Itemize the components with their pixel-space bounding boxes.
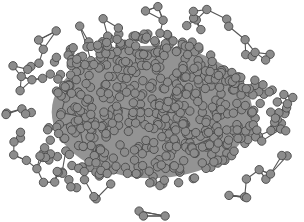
graph-node [157, 161, 165, 169]
graph-node [90, 60, 98, 68]
graph-node [282, 127, 290, 135]
graph-node [121, 57, 129, 65]
graph-node [80, 167, 88, 175]
graph-node [158, 133, 166, 141]
graph-node [172, 142, 180, 150]
graph-node [107, 180, 115, 188]
graph-node [225, 191, 233, 199]
graph-node [265, 88, 273, 96]
graph-node [113, 35, 121, 43]
graph-node [151, 37, 159, 45]
graph-node [280, 90, 288, 98]
graph-node [192, 128, 200, 136]
graph-node [36, 152, 44, 160]
graph-node [80, 176, 88, 184]
graph-node [248, 108, 256, 116]
network-graph [0, 0, 304, 222]
graph-node [114, 24, 122, 32]
graph-node [214, 71, 222, 79]
graph-node [112, 162, 120, 170]
graph-node [208, 57, 216, 65]
graph-node [201, 84, 209, 92]
graph-node [160, 51, 168, 59]
graph-node [251, 76, 259, 84]
graph-node [271, 114, 279, 122]
nodes-layer [2, 2, 297, 220]
graph-node [38, 74, 46, 82]
graph-node [217, 105, 225, 113]
graph-node [129, 99, 137, 107]
graph-node [46, 70, 54, 78]
graph-node [132, 169, 140, 177]
graph-node [73, 55, 81, 63]
graph-node [139, 50, 147, 58]
graph-node [259, 81, 267, 89]
graph-node [204, 128, 212, 136]
graph-node [52, 53, 60, 61]
graph-node [69, 44, 77, 52]
graph-node [91, 121, 99, 129]
graph-node [214, 128, 222, 136]
graph-node [172, 47, 180, 55]
graph-node [9, 62, 17, 70]
graph-node [84, 95, 92, 103]
graph-node [72, 76, 80, 84]
graph-node [67, 89, 75, 97]
graph-node [232, 74, 240, 82]
graph-node [40, 144, 48, 152]
graph-node [142, 33, 150, 41]
graph-node [195, 43, 203, 51]
graph-node [139, 77, 147, 85]
graph-node [74, 116, 82, 124]
graph-node [53, 167, 61, 175]
graph-node [185, 42, 193, 50]
graph-node [194, 97, 202, 105]
graph-node [230, 147, 238, 155]
graph-node [54, 89, 62, 97]
graph-node [169, 37, 177, 45]
graph-node [190, 174, 198, 182]
graph-node [114, 114, 122, 122]
graph-node [103, 169, 111, 177]
graph-node [93, 41, 101, 49]
graph-node [210, 158, 218, 166]
graph-node [16, 87, 24, 95]
graph-node [233, 126, 241, 134]
graph-node [229, 109, 237, 117]
graph-node [102, 49, 110, 57]
graph-node [116, 141, 124, 149]
graph-node [182, 73, 190, 81]
graph-node [67, 183, 75, 191]
graph-node [213, 113, 221, 121]
graph-node [255, 166, 263, 174]
graph-node [87, 141, 95, 149]
graph-node [52, 27, 60, 35]
graph-node [85, 71, 93, 79]
graph-node [164, 97, 172, 105]
graph-node [154, 2, 162, 10]
graph-node [161, 212, 169, 220]
graph-node [242, 175, 250, 183]
graph-node [223, 126, 231, 134]
graph-node [61, 83, 69, 91]
graph-node [138, 161, 146, 169]
graph-node [160, 176, 168, 184]
graph-node [86, 133, 94, 141]
graph-node [198, 159, 206, 167]
graph-node [202, 118, 210, 126]
graph-node [33, 165, 41, 173]
graph-node [180, 157, 188, 165]
graph-node [159, 16, 167, 24]
graph-node [156, 74, 164, 82]
graph-node [203, 5, 211, 13]
graph-node [251, 48, 259, 56]
graph-node [150, 138, 158, 146]
graph-node [261, 56, 269, 64]
graph-node [131, 89, 139, 97]
graph-node [21, 110, 29, 118]
graph-node [253, 126, 261, 134]
graph-node [92, 159, 100, 167]
graph-node [122, 88, 130, 96]
graph-node [242, 85, 250, 93]
graph-node [182, 90, 190, 98]
